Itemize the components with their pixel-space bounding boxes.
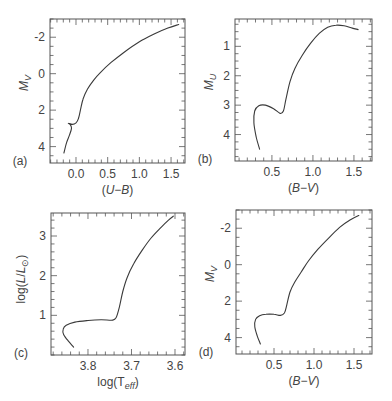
x-tick-label: 1.5 <box>346 358 363 372</box>
panel-label: (c) <box>14 346 28 360</box>
x-tick-label: 0.5 <box>266 358 283 372</box>
isochrone-curve <box>255 216 359 345</box>
y-tick-label: 4 <box>224 331 231 345</box>
y-tick-label: 1 <box>39 308 46 322</box>
plot-frame <box>235 19 372 161</box>
y-axis-label: MU <box>202 73 218 90</box>
y-tick-label: 0 <box>38 67 45 81</box>
x-tick-label: 0.0 <box>68 167 85 181</box>
isochrone-curve <box>64 25 179 154</box>
x-axis-label: (U−B) <box>102 183 134 197</box>
y-tick-label: 0 <box>224 258 231 272</box>
y-tick-label: 4 <box>223 128 230 142</box>
x-axis-label: (B−V) <box>288 181 319 195</box>
x-tick-label: 0.5 <box>264 165 281 179</box>
y-tick-label: 2 <box>38 103 45 117</box>
plot-frame <box>50 19 185 163</box>
y-tick-label: -2 <box>220 221 231 235</box>
x-tick-label: 3.7 <box>123 359 140 373</box>
y-tick-label: 2 <box>223 69 230 83</box>
x-tick-label: 0.5 <box>99 167 116 181</box>
isochrone-curve <box>254 25 358 149</box>
isochrone-figure: 0.00.51.01.5-2024(U−B)MV(a)0.51.01.51234… <box>0 0 392 401</box>
x-tick-label: 1.0 <box>131 167 148 181</box>
y-axis-label: MV <box>17 74 33 91</box>
y-tick-label: 2 <box>39 269 46 283</box>
panel-label: (a) <box>13 154 28 168</box>
panel-label: (b) <box>198 152 213 166</box>
x-tick-label: 3.6 <box>167 359 184 373</box>
y-tick-label: 2 <box>224 294 231 308</box>
x-axis-label: (B−V) <box>288 374 319 388</box>
y-tick-label: 4 <box>38 140 45 154</box>
y-tick-label: 1 <box>223 39 230 53</box>
y-axis-label: log(L/L⊙) <box>14 255 30 304</box>
x-tick-label: 1.5 <box>163 167 180 181</box>
plot-frame <box>51 213 185 355</box>
y-tick-label: 3 <box>39 229 46 243</box>
panel-label: (d) <box>199 345 214 359</box>
panel-d: 0.51.01.5-2024(B−V)MV(d) <box>199 210 372 388</box>
y-tick-label: -2 <box>34 30 45 44</box>
panel-b: 0.51.01.51234(B−V)MU(b) <box>198 19 372 195</box>
y-tick-label: 3 <box>223 98 230 112</box>
x-axis-label: log(Teff) <box>97 375 138 391</box>
y-axis-label: MV <box>203 265 219 282</box>
x-tick-label: 3.8 <box>80 359 97 373</box>
x-tick-label: 1.0 <box>305 165 322 179</box>
x-tick-label: 1.5 <box>346 165 363 179</box>
isochrone-curve <box>63 216 173 347</box>
panel-c: 3.83.73.6123log(Teff)log(L/L⊙)(c) <box>14 213 185 391</box>
panel-a: 0.00.51.01.5-2024(U−B)MV(a) <box>13 19 185 197</box>
x-tick-label: 1.0 <box>306 358 323 372</box>
